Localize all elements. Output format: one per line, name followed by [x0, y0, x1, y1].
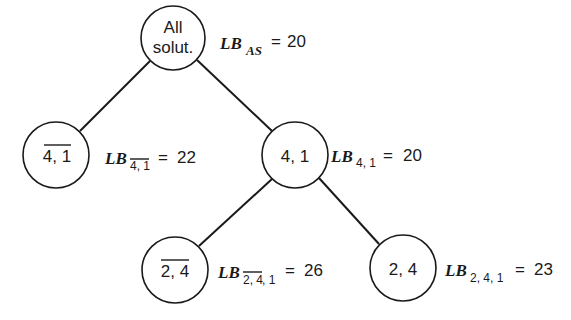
bound-equals: =: [158, 148, 168, 167]
bound-equals: =: [271, 32, 281, 51]
bound-prefix: LB: [330, 147, 353, 166]
bound-value: 23: [534, 260, 553, 279]
edge-4-1-to-not-2-4: [199, 179, 272, 246]
bound-subscript: 2, 4, 1: [470, 271, 504, 285]
bnb-tree-diagram: All solut. LB AS = 20 4, 1 LB 4, 1 = 22 …: [0, 0, 571, 320]
bound-subscript: 4, 1: [356, 156, 376, 170]
node-4-1-label: 4, 1: [281, 147, 309, 166]
bound-equals: =: [285, 261, 295, 280]
node-4-1: 4, 1: [262, 122, 328, 188]
node-root: All solut.: [141, 6, 205, 70]
bound-subscript-overlined: 4, 1: [130, 159, 150, 173]
edge-root-to-not-4-1: [80, 61, 150, 131]
edge-root-to-4-1: [197, 60, 272, 131]
node-root-label-line1: All: [164, 18, 183, 37]
bound-prefix: LB: [217, 263, 240, 282]
bound-label-4-1: LB 4, 1 = 20: [330, 146, 422, 170]
bound-value: 20: [287, 32, 306, 51]
node-not-2-4-label: 2, 4: [161, 262, 189, 281]
bound-subscript: AS: [245, 43, 262, 58]
bound-label-not-2-4: LB 2, 4 , 1 = 26: [217, 261, 323, 287]
bound-prefix: LB: [444, 261, 467, 280]
node-not-2-4: 2, 4: [142, 237, 208, 303]
bound-value: 22: [177, 148, 196, 167]
bound-label-not-4-1: LB 4, 1 = 22: [104, 148, 196, 173]
bound-prefix: LB: [219, 34, 242, 53]
bound-subscript-rest: , 1: [262, 273, 276, 287]
node-2-4-label: 2, 4: [389, 260, 417, 279]
node-not-4-1-label: 4, 1: [43, 147, 71, 166]
node-2-4: 2, 4: [370, 235, 436, 301]
node-root-label-line2: solut.: [153, 38, 194, 57]
bound-value: 26: [304, 261, 323, 280]
bound-subscript-overlined: 2, 4: [243, 273, 263, 287]
bound-prefix: LB: [104, 149, 127, 168]
bound-equals: =: [515, 260, 525, 279]
node-not-4-1: 4, 1: [23, 122, 89, 188]
bound-value: 20: [403, 146, 422, 165]
bound-label-2-4: LB 2, 4, 1 = 23: [444, 260, 553, 285]
bound-label-root: LB AS = 20: [219, 32, 306, 58]
edge-4-1-to-2-4: [319, 178, 379, 244]
bound-equals: =: [383, 146, 393, 165]
